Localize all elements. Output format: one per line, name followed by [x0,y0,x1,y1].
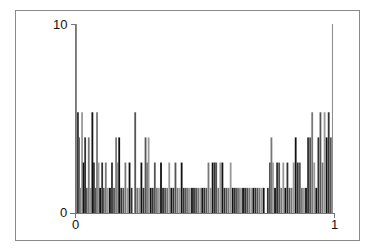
histogram-bar [250,188,252,213]
histogram-bar [79,188,81,213]
histogram-bar [152,188,154,213]
histogram-bar [212,163,214,213]
histogram-bar [86,188,88,213]
histogram-bar [267,188,269,213]
histogram-bar [131,188,133,213]
histogram-bar [141,163,143,213]
histogram-bar [164,188,166,213]
histogram-bar [230,163,232,213]
histogram-bar [269,163,271,213]
histogram-bar [103,188,105,213]
histogram-bar [208,163,210,213]
histogram-bar [274,188,276,213]
histogram-bar [88,137,90,213]
histogram-bar [309,137,311,213]
histogram-bar [203,188,205,213]
histogram-bar [84,137,86,213]
histogram-bar [146,163,148,213]
histogram-bar [125,163,127,213]
histogram-bar [183,188,185,213]
histogram-bar [330,137,332,213]
histogram-bar [138,188,140,213]
histogram-bar [199,188,201,213]
histogram-bar [118,137,120,213]
histogram-bar [234,188,236,213]
histogram-bar [177,188,179,213]
histogram-bar [120,188,122,213]
histogram-bar [263,188,265,213]
histogram-bar [289,188,291,213]
histogram-bar [76,24,77,213]
histogram-bar [96,112,98,213]
histogram-bar [191,188,193,213]
histogram-bar [179,188,181,213]
histogram-bar [181,163,183,213]
histogram-bar [278,163,280,213]
histogram-bar [156,188,158,213]
histogram-bar [107,188,109,213]
histogram-bar [280,188,282,213]
histogram-bar [143,188,145,213]
histogram-bar [282,163,284,213]
histogram-bar [197,188,199,213]
histogram-bar [236,188,238,213]
histogram-bar [224,188,226,213]
histogram-bar [129,163,131,213]
histogram-bar [201,188,203,213]
histogram-bar [240,188,242,213]
histogram-bar [101,163,103,213]
histogram-bar [303,188,305,213]
histogram-bar [195,188,197,213]
x-tick-label-0: 0 [72,217,79,232]
histogram-bar [301,188,303,213]
histogram-bar [295,137,297,213]
histogram-bar [158,188,160,213]
histogram-bar [91,112,93,213]
histogram-bar [307,137,309,213]
histogram-bar [317,137,319,213]
histogram-bar [148,137,150,213]
histogram-bar [255,188,257,213]
histogram-bar [257,188,259,213]
histogram-bar [93,163,95,213]
histogram-bar [311,112,313,213]
histogram-bars [76,24,333,213]
histogram-bar [238,188,240,213]
histogram-bar [313,163,315,213]
histogram-bar [168,163,170,213]
histogram-bar [150,188,152,213]
histogram-bar [287,163,289,213]
histogram-bar [215,163,217,213]
histogram-bar [113,188,115,213]
histogram-bar [219,163,221,213]
histogram-bar [185,188,187,213]
histogram-bar [109,188,111,213]
histogram-plot [0,0,379,250]
histogram-bar [115,137,117,213]
histogram-bar [297,163,299,213]
histogram-bar [117,163,119,213]
histogram-bar [244,188,246,213]
histogram-bar [105,163,107,213]
histogram-bar [320,112,322,213]
histogram-bar [293,163,295,213]
histogram-bar [305,188,307,213]
histogram-bar [248,188,250,213]
histogram-bar [99,188,101,213]
histogram-bar [332,24,333,213]
y-tick-label-0: 0 [60,205,67,220]
histogram-bar [226,188,228,213]
histogram-bar [328,112,330,213]
histogram-bar [284,188,286,213]
histogram-bar [210,188,212,213]
histogram-bar [228,188,230,213]
histogram-bar [214,163,216,213]
histogram-bar [299,163,301,213]
histogram-bar [98,163,100,213]
histogram-bar [232,188,234,213]
histogram-bar [189,188,191,213]
histogram-bar [187,188,189,213]
histogram-bar [272,163,274,213]
histogram-bar [315,188,317,213]
histogram-bar [324,112,326,213]
